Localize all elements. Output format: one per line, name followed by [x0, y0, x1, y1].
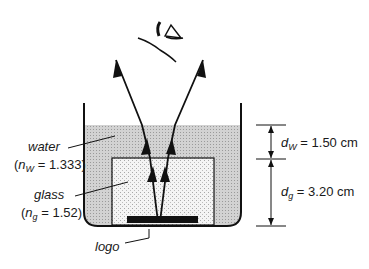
logo-label: logo: [95, 240, 120, 254]
n-value: = 1.52): [38, 205, 82, 220]
n-subscript: W: [26, 164, 35, 174]
d-value: = 1.50 cm: [297, 135, 358, 150]
eye-icon: [138, 22, 183, 62]
d-subscript: W: [288, 142, 297, 152]
dw-label: dW = 1.50 cm: [281, 136, 358, 154]
dg-label: dg = 3.20 cm: [281, 185, 354, 203]
n-symbol: n: [18, 157, 25, 172]
d-value: = 3.20 cm: [293, 184, 354, 199]
water-index-label: (nW = 1.333): [14, 158, 86, 176]
n-symbol: n: [25, 205, 32, 220]
logo-bar: [127, 216, 198, 223]
n-value: = 1.333): [34, 157, 86, 172]
glass-index-label: (ng = 1.52): [21, 206, 82, 224]
water-label: water: [28, 140, 60, 154]
glass-label: glass: [34, 188, 64, 202]
